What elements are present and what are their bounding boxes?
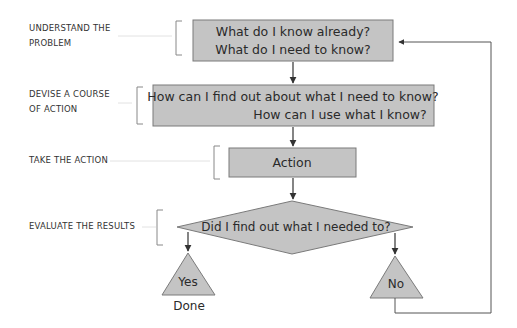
done-caption: Done [173,299,205,313]
bracket-understand [176,21,182,55]
stage-label-line: PROBLEM [29,36,111,51]
stage-label-evaluate: EVALUATE THE RESULTS [29,219,135,234]
no-text: No [388,277,404,291]
stage-label-devise: DEVISE A COURSE OF ACTION [29,87,110,117]
understand-line1: What do I know already? [216,24,370,39]
understand-line2: What do I need to know? [215,42,370,57]
yes-text: Yes [177,275,197,289]
bracket-action [214,146,220,179]
leader-lines [110,36,210,227]
devise-line2: How can I use what I know? [253,107,426,122]
stage-label-understand: UNDERSTAND THE PROBLEM [29,21,111,51]
stage-label-line: OF ACTION [29,102,110,117]
stage-label-line: DEVISE A COURSE [29,87,110,102]
stage-label-action: TAKE THE ACTION [29,153,108,168]
stage-label-line: UNDERSTAND THE [29,21,111,36]
bracket-evaluate [157,210,163,245]
loop-back-arrow [395,42,491,313]
evaluate-text: Did I find out what I needed to? [201,220,390,234]
stage-label-line: EVALUATE THE RESULTS [29,219,135,234]
stage-label-line: TAKE THE ACTION [29,153,108,168]
devise-line1: How can I find out about what I need to … [147,89,438,104]
bracket-devise [137,87,143,124]
action-text: Action [272,155,311,170]
